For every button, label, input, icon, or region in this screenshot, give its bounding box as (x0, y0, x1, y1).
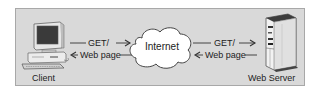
internet-label: Internet (145, 41, 179, 52)
server-response-label: Web page (205, 50, 246, 60)
server-label: Web Server (248, 73, 295, 83)
server-tower-icon (258, 12, 300, 72)
client-request-label: GET/ (88, 38, 109, 48)
client-label: Client (32, 73, 55, 83)
server-request-label: GET/ (214, 38, 235, 48)
client-response-label: Web page (80, 50, 121, 60)
desktop-computer-icon (20, 20, 70, 72)
